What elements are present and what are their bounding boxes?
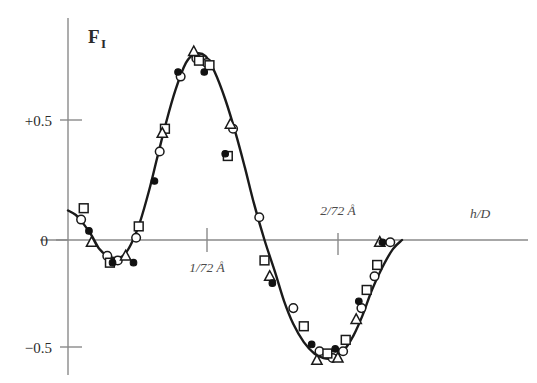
data-point [134,222,143,231]
y-tick-label-plus-half: +0.5 [25,113,52,129]
data-point [201,69,208,76]
y-axis-label-subscript: I [101,36,106,51]
y-tick-group [56,120,82,347]
data-point [265,271,275,281]
data-point [175,69,182,76]
data-point [332,346,339,353]
data-point [362,286,371,295]
data-point [339,347,348,356]
data-point [77,215,86,224]
data-point [356,298,363,305]
data-point [308,341,315,348]
data-point [351,314,361,324]
x-axis-label: h/D [470,206,491,221]
data-point [79,204,88,213]
data-point [151,178,158,185]
data-point [155,147,164,156]
data-point [109,259,116,266]
data-point [222,150,229,157]
data-point [195,56,204,65]
data-point [120,250,130,260]
axes-group [40,18,528,375]
data-point [130,259,137,266]
data-point [132,233,141,242]
data-point [379,239,386,246]
data-point [205,61,214,70]
data-point [370,272,379,281]
y-tick-label-zero: 0 [41,233,49,249]
data-point [289,304,298,313]
y-tick-label-minus-half: −0.5 [25,340,52,356]
annotation-1-72: 1/72 Å [189,260,225,275]
y-axis-label: F I [88,26,106,51]
structure-factor-chart: +0.5 0 −0.5 F I h/D 1/72 Å 2/72 Å [0,0,537,383]
data-point [260,256,269,265]
data-point [373,261,382,270]
y-axis-label-main: F [88,26,100,47]
data-point [255,213,264,222]
data-point [86,228,93,235]
data-point [299,322,308,331]
data-point [189,46,199,56]
data-point [323,349,332,358]
annotation-2-72: 2/72 Å [320,203,356,218]
data-point [269,280,276,287]
x-tick-group [207,228,338,255]
data-point [341,335,350,344]
data-point [386,238,395,247]
